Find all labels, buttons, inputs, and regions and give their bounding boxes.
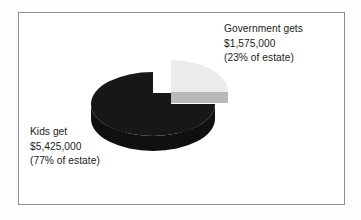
annotation-government: Government gets $1,575,000 (23% of estat… — [224, 22, 303, 66]
annotation-government-line3: (23% of estate) — [224, 51, 303, 66]
annotation-kids-line3: (77% of estate) — [30, 154, 100, 169]
pie-chart-figure: Government gets $1,575,000 (23% of estat… — [0, 0, 361, 220]
pie-chart-graphic — [0, 0, 361, 220]
pie-slice-government-side — [171, 92, 228, 103]
pie-slice-government[interactable] — [171, 60, 228, 103]
pie-slice-government-top — [171, 60, 228, 92]
annotation-kids: Kids get $5,425,000 (77% of estate) — [30, 125, 100, 169]
annotation-government-line2: $1,575,000 — [224, 37, 303, 52]
annotation-kids-line1: Kids get — [30, 125, 100, 140]
annotation-kids-line2: $5,425,000 — [30, 140, 100, 155]
annotation-government-line1: Government gets — [224, 22, 303, 37]
